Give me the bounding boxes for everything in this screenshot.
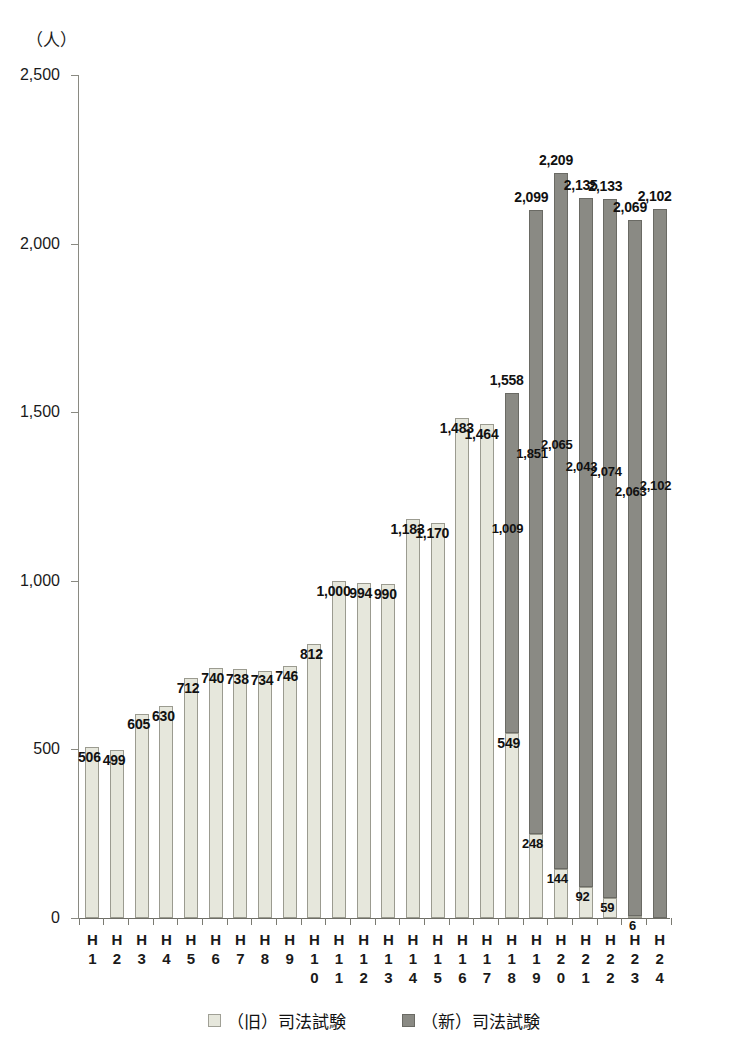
bar-segment-new-exam[interactable]	[628, 220, 642, 916]
y-axis-tick	[71, 75, 79, 76]
legend-item-label: （旧）司法試験	[227, 1008, 346, 1033]
x-axis-category-label: H20	[549, 930, 573, 987]
x-axis-category-label: H4	[154, 930, 178, 968]
bar-group[interactable]	[209, 75, 223, 918]
bar-group[interactable]	[554, 75, 568, 918]
bar-group[interactable]	[110, 75, 124, 918]
bar-group[interactable]	[406, 75, 420, 918]
bar-segment-old-exam[interactable]	[406, 519, 420, 918]
x-axis-category-label-line: H	[648, 930, 672, 949]
bar-segment-new-exam[interactable]	[505, 393, 519, 733]
bar-value-label-new-exam: 2,074	[590, 465, 622, 479]
x-axis-category-label: H12	[352, 930, 376, 987]
bar-value-label-new-exam: 1,009	[492, 522, 524, 536]
bar-segment-old-exam[interactable]	[110, 750, 124, 918]
bar-segment-old-exam[interactable]	[455, 418, 469, 918]
bar-segment-new-exam[interactable]	[579, 198, 593, 887]
x-axis-category-labels: H1H2H3H4H5H6H7H8H9H10H11H12H13H14H15H16H…	[78, 930, 670, 1000]
bar-segment-old-exam[interactable]	[505, 733, 519, 918]
y-axis-tick	[71, 918, 79, 919]
bar-segment-new-exam[interactable]	[653, 209, 667, 918]
x-axis-category-label-line: H	[426, 930, 450, 949]
bar-segment-old-exam[interactable]	[332, 581, 346, 918]
bar-group[interactable]	[332, 75, 346, 918]
x-axis-category-label-line: H	[253, 930, 277, 949]
x-axis-category-label-line: 7	[475, 968, 499, 987]
x-axis-tick	[523, 918, 524, 925]
x-axis-category-label-line: 0	[302, 968, 326, 987]
bar-segment-old-exam[interactable]	[258, 671, 272, 919]
bar-group[interactable]	[283, 75, 297, 918]
x-axis-category-label: H7	[228, 930, 252, 968]
x-axis-category-label-line: 1	[80, 949, 104, 968]
bar-value-label-old-exam: 994	[349, 586, 372, 600]
x-axis-category-label: H14	[401, 930, 425, 987]
bar-group[interactable]	[455, 75, 469, 918]
bar-segment-old-exam[interactable]	[209, 668, 223, 918]
x-axis-category-label: H3	[130, 930, 154, 968]
y-tick-label: 1,000	[20, 573, 60, 589]
bar-group[interactable]	[184, 75, 198, 918]
legend-item-new-exam[interactable]: （新）司法試験	[402, 1008, 540, 1033]
bar-group[interactable]	[135, 75, 149, 918]
x-axis-category-label-line: 9	[278, 949, 302, 968]
bar-value-label-old-exam: 1,464	[465, 427, 499, 441]
bar-segment-old-exam[interactable]	[283, 666, 297, 918]
x-axis-category-label-line: H	[549, 930, 573, 949]
x-axis-category-label-line: H	[475, 930, 499, 949]
bar-group[interactable]	[431, 75, 445, 918]
bar-segment-old-exam[interactable]	[381, 584, 395, 918]
bar-group[interactable]	[85, 75, 99, 918]
bar-value-label-old-exam: 630	[152, 709, 175, 723]
bar-segment-old-exam[interactable]	[431, 523, 445, 918]
x-axis-category-label-line: 4	[648, 968, 672, 987]
x-axis-category-label-line: H	[179, 930, 203, 949]
x-axis-category-label-line: 8	[500, 968, 524, 987]
bar-total-label: 2,099	[514, 190, 548, 204]
x-axis-tick	[671, 918, 672, 925]
x-axis-category-label-line: 3	[130, 949, 154, 968]
legend-item-old-exam[interactable]: （旧）司法試験	[208, 1008, 346, 1033]
x-axis-category-label: H10	[302, 930, 326, 987]
y-tick-label: 2,500	[20, 67, 60, 83]
x-axis-tick	[251, 918, 252, 925]
x-axis-tick	[128, 918, 129, 925]
bar-group[interactable]	[159, 75, 173, 918]
bar-segment-old-exam[interactable]	[307, 644, 321, 918]
x-axis-category-label-line: H	[450, 930, 474, 949]
bar-segment-old-exam[interactable]	[135, 714, 149, 918]
bar-segment-new-exam[interactable]	[554, 173, 568, 869]
x-axis-category-label: H18	[500, 930, 524, 987]
bar-segment-old-exam[interactable]	[233, 669, 247, 918]
bar-segment-new-exam[interactable]	[603, 199, 617, 898]
y-axis-tick	[71, 412, 79, 413]
x-axis-tick	[399, 918, 400, 925]
x-axis-category-label: H1	[80, 930, 104, 968]
x-axis-category-label-line: H	[500, 930, 524, 949]
x-axis-category-label-line: 1	[450, 949, 474, 968]
x-axis-category-label-line: 1	[327, 968, 351, 987]
bar-group[interactable]	[233, 75, 247, 918]
bar-group[interactable]	[579, 75, 593, 918]
bar-segment-old-exam[interactable]	[159, 706, 173, 918]
x-axis-tick	[621, 918, 622, 925]
x-axis-tick	[547, 918, 548, 925]
bar-group[interactable]	[357, 75, 371, 918]
bar-group[interactable]	[258, 75, 272, 918]
x-axis-category-label-line: 1	[327, 949, 351, 968]
bar-group[interactable]	[307, 75, 321, 918]
bar-segment-old-exam[interactable]	[184, 678, 198, 918]
bar-total-label: 1,558	[490, 373, 524, 387]
x-axis-category-label: H6	[204, 930, 228, 968]
bar-value-label-old-exam: 1,170	[415, 526, 449, 540]
bar-group[interactable]	[381, 75, 395, 918]
bar-segment-old-exam[interactable]	[357, 583, 371, 918]
x-axis-category-label-line: H	[623, 930, 647, 949]
bar-segment-old-exam[interactable]	[85, 747, 99, 918]
bar-segment-new-exam[interactable]	[529, 210, 543, 834]
bar-value-label-new-exam: 2,102	[640, 479, 672, 493]
bar-group[interactable]	[480, 75, 494, 918]
x-axis-category-label-line: H	[105, 930, 129, 949]
bar-segment-old-exam[interactable]	[480, 424, 494, 918]
bar-total-label: 2,209	[539, 153, 573, 167]
